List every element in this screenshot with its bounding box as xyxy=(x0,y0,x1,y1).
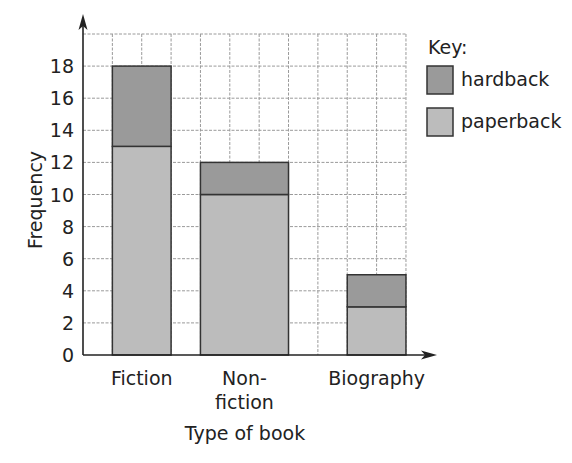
legend-item-paperback: paperback xyxy=(427,108,561,136)
legend-swatch-icon xyxy=(427,66,453,94)
stacked-bar-chart: 024681012141618 FictionNon-fictionBiogra… xyxy=(0,0,572,463)
bar-group-non-fiction xyxy=(200,162,288,355)
bar-segment-paperback xyxy=(200,195,288,356)
y-tick-label: 18 xyxy=(50,55,74,77)
x-category-labels: FictionNon-fictionBiography xyxy=(111,367,425,413)
y-tick-label: 8 xyxy=(62,216,74,238)
bar-segment-paperback xyxy=(347,307,406,355)
y-tick-label: 12 xyxy=(50,151,74,173)
y-tick-label: 0 xyxy=(62,344,74,366)
y-axis-title: Frequency xyxy=(24,151,46,249)
x-category-label: Non-fiction xyxy=(215,367,274,413)
chart-canvas: 024681012141618 FictionNon-fictionBiogra… xyxy=(0,0,572,463)
y-tick-label: 10 xyxy=(50,184,74,206)
x-axis-title: Type of book xyxy=(184,422,305,444)
y-tick-label: 4 xyxy=(62,280,74,302)
bar-segment-paperback xyxy=(112,146,171,355)
legend: Key: hardbackpaperback xyxy=(427,36,561,136)
bar-segment-hardback xyxy=(112,66,171,146)
bar-segment-hardback xyxy=(200,162,288,194)
bar-group-fiction xyxy=(112,66,171,355)
legend-item-hardback: hardback xyxy=(427,66,549,94)
legend-label: paperback xyxy=(461,110,561,132)
legend-label: hardback xyxy=(461,68,549,90)
bar-group-biography xyxy=(347,275,406,355)
x-category-label: Biography xyxy=(328,367,425,389)
y-tick-label: 2 xyxy=(62,312,74,334)
y-tick-label: 6 xyxy=(62,248,74,270)
bars xyxy=(112,66,406,355)
y-tick-labels: 024681012141618 xyxy=(50,55,74,366)
x-category-label: Fiction xyxy=(111,367,173,389)
bar-segment-hardback xyxy=(347,275,406,307)
y-tick-label: 14 xyxy=(50,119,74,141)
legend-title: Key: xyxy=(428,36,467,58)
legend-swatch-icon xyxy=(427,108,453,136)
y-tick-label: 16 xyxy=(50,87,74,109)
